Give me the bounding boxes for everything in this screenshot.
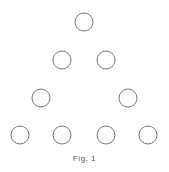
- circle-node-5: [119, 89, 137, 107]
- circle-node-9: [139, 126, 157, 144]
- circle-node-3: [97, 51, 115, 69]
- circle-node-2: [53, 51, 71, 69]
- circle-node-1: [75, 13, 93, 31]
- circle-triangle-diagram: [0, 0, 169, 172]
- figure-caption: Fig. 1: [0, 154, 169, 163]
- circle-node-8: [97, 126, 115, 144]
- circle-node-6: [11, 126, 29, 144]
- circle-node-4: [32, 89, 50, 107]
- circle-node-7: [53, 126, 71, 144]
